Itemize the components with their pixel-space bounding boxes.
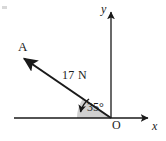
- x-axis-label: x: [152, 120, 157, 132]
- force-magnitude-label: 17 N: [62, 69, 87, 81]
- angle-value-label: 35°: [87, 101, 104, 113]
- force-vector-diagram: A 17 N 35° O y x: [0, 0, 166, 141]
- y-axis-label: y: [101, 3, 106, 15]
- point-a-label: A: [18, 40, 27, 53]
- origin-label: O: [112, 119, 121, 131]
